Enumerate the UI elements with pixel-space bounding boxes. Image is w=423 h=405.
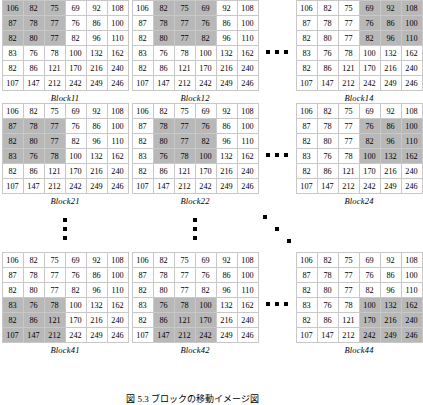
matrix-cell: 240 xyxy=(401,61,422,76)
matrix-cell: 147 xyxy=(153,76,174,91)
ellipsis-dot xyxy=(275,50,279,54)
matrix-cell: 132 xyxy=(86,298,107,313)
matrix-row: 837678100132162 xyxy=(296,46,422,61)
matrix-cell: 132 xyxy=(216,298,237,313)
matrix-cell: 110 xyxy=(237,31,258,46)
matrix-cell-highlighted: 121 xyxy=(44,313,65,328)
matrix-row: 8778777686100 xyxy=(296,16,422,31)
matrix-cell: 242 xyxy=(65,76,86,91)
matrix-cell: 69 xyxy=(65,253,86,268)
matrix-cell: 121 xyxy=(44,61,65,76)
matrix-cell: 76 xyxy=(317,46,338,61)
matrix-cell: 246 xyxy=(107,76,128,91)
matrix-cell: 82 xyxy=(23,104,44,119)
matrix-cell: 106 xyxy=(132,253,153,268)
matrix-row: 8280778296110 xyxy=(296,134,422,149)
matrix-cell-highlighted: 76 xyxy=(195,119,216,134)
matrix-cell: 86 xyxy=(86,16,107,31)
matrix-row: 8778777686100 xyxy=(2,16,128,31)
matrix-table: 1068275699210887787776861008280778296110… xyxy=(296,103,423,194)
matrix-cell: 82 xyxy=(296,61,317,76)
matrix-row: 8280778296110 xyxy=(296,31,422,46)
matrix-row: 10682756992108 xyxy=(296,253,422,268)
matrix-row: 8280778296110 xyxy=(132,283,258,298)
matrix-row: 8280778296110 xyxy=(2,31,128,46)
ellipsis-dot xyxy=(63,227,67,231)
matrix-cell-highlighted: 76 xyxy=(195,16,216,31)
block-block12: 1068275699210887787776861008280778296110… xyxy=(132,0,259,103)
matrix-cell: 107 xyxy=(132,328,153,343)
matrix-cell: 170 xyxy=(65,164,86,179)
matrix-row: 837678100132162 xyxy=(2,46,128,61)
ellipsis-dot xyxy=(193,227,197,231)
ellipsis-dot xyxy=(266,153,270,157)
matrix-cell: 78 xyxy=(153,268,174,283)
matrix-cell: 147 xyxy=(23,76,44,91)
matrix-row: 8286121170216240 xyxy=(132,61,258,76)
matrix-row: 8286121170216240 xyxy=(132,164,258,179)
matrix-cell: 77 xyxy=(338,16,359,31)
matrix-cell: 107 xyxy=(2,179,23,194)
matrix-row: 10682756992108 xyxy=(296,1,422,16)
matrix-cell: 162 xyxy=(237,149,258,164)
matrix-cell: 69 xyxy=(195,253,216,268)
ellipsis-dot xyxy=(275,227,279,231)
spacer xyxy=(193,206,197,252)
matrix-row: 107147212242249246 xyxy=(2,179,128,194)
matrix-cell: 83 xyxy=(132,46,153,61)
matrix-cell-highlighted: 106 xyxy=(2,1,23,16)
matrix-cell-highlighted: 77 xyxy=(174,31,195,46)
matrix-row: 8778777686100 xyxy=(132,119,258,134)
matrix-cell-highlighted: 242 xyxy=(359,328,380,343)
matrix-row: 837678100132162 xyxy=(296,298,422,313)
matrix-cell: 110 xyxy=(237,283,258,298)
matrix-cell: 100 xyxy=(195,46,216,61)
matrix-cell-highlighted: 76 xyxy=(153,298,174,313)
matrix-row: 8286121170216240 xyxy=(296,164,422,179)
matrix-cell: 100 xyxy=(65,46,86,61)
matrix-cell: 132 xyxy=(380,46,401,61)
matrix-cell-highlighted: 78 xyxy=(23,119,44,134)
matrix-cell-highlighted: 87 xyxy=(2,16,23,31)
matrix-cell-highlighted: 108 xyxy=(401,1,422,16)
matrix-cell: 76 xyxy=(153,46,174,61)
matrix-cell: 216 xyxy=(216,61,237,76)
matrix-cell: 86 xyxy=(153,61,174,76)
matrix-cell: 246 xyxy=(401,179,422,194)
matrix-cell: 76 xyxy=(23,46,44,61)
matrix-cell-highlighted: 132 xyxy=(380,298,401,313)
matrix-cell: 86 xyxy=(23,164,44,179)
matrix-cell: 82 xyxy=(317,253,338,268)
matrix-cell-highlighted: 121 xyxy=(174,313,195,328)
matrix-row: 8280778296110 xyxy=(2,283,128,298)
matrix-cell: 76 xyxy=(65,16,86,31)
matrix-cell: 77 xyxy=(338,283,359,298)
matrix-cell: 212 xyxy=(44,76,65,91)
matrix-cell: 77 xyxy=(44,268,65,283)
matrix-cell: 86 xyxy=(317,61,338,76)
matrix-cell: 110 xyxy=(107,134,128,149)
matrix-cell: 107 xyxy=(296,328,317,343)
matrix-cell: 75 xyxy=(338,253,359,268)
matrix-cell: 83 xyxy=(2,46,23,61)
matrix-cell: 82 xyxy=(132,31,153,46)
matrix-cell: 82 xyxy=(296,164,317,179)
matrix-cell: 82 xyxy=(296,313,317,328)
matrix-cell: 87 xyxy=(296,119,317,134)
matrix-row: 107147212242249246 xyxy=(2,328,128,343)
matrix-cell: 83 xyxy=(296,298,317,313)
horizontal-ellipsis-row2 xyxy=(266,153,288,157)
matrix-table: 1068275699210887787776861008280778296110… xyxy=(296,252,423,343)
matrix-cell: 82 xyxy=(65,283,86,298)
matrix-cell: 147 xyxy=(153,179,174,194)
matrix-cell: 82 xyxy=(195,283,216,298)
matrix-row: 10682756992108 xyxy=(2,1,128,16)
ellipsis-dot xyxy=(263,215,267,219)
matrix-cell: 96 xyxy=(216,283,237,298)
matrix-cell: 77 xyxy=(338,134,359,149)
matrix-cell: 82 xyxy=(2,61,23,76)
matrix-cell: 92 xyxy=(380,253,401,268)
matrix-cell: 212 xyxy=(174,179,195,194)
block-label: Block42 xyxy=(132,345,259,355)
matrix-cell: 76 xyxy=(65,119,86,134)
